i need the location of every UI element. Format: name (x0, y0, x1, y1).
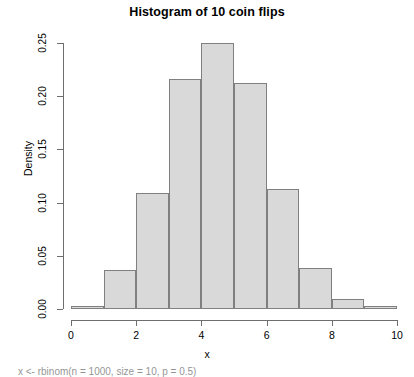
y-tick-mark (57, 149, 63, 150)
x-tick-label: 4 (198, 329, 204, 341)
x-tick-mark (201, 320, 202, 326)
y-tick-label: 0.20 (37, 86, 48, 105)
y-tick-label: 0.00 (37, 299, 48, 318)
x-tick-label: 2 (133, 329, 139, 341)
x-tick-label: 10 (391, 329, 403, 341)
chart-title: Histogram of 10 coin flips (0, 5, 414, 19)
histogram-bar (201, 43, 234, 309)
x-tick-mark (332, 320, 333, 326)
y-axis-label: Density (22, 141, 34, 176)
x-axis-line (71, 320, 397, 321)
histogram-bar (136, 193, 169, 309)
plot-area (71, 43, 397, 309)
code-caption: x <- rbinom(n = 1000, size = 10, p = 0.5… (18, 366, 196, 377)
histogram-bar (104, 270, 137, 309)
x-tick-label: 0 (68, 329, 74, 341)
y-tick-mark (57, 43, 63, 44)
histogram-bar (234, 83, 267, 309)
histogram-bar (364, 306, 397, 309)
y-tick-label: 0.05 (37, 246, 48, 265)
y-tick-label: 0.15 (37, 140, 48, 159)
x-tick-mark (71, 320, 72, 326)
y-tick-mark (57, 256, 63, 257)
histogram-bar (299, 268, 332, 309)
y-tick-label: 0.25 (37, 33, 48, 52)
histogram-bar (332, 299, 365, 309)
y-tick-mark (57, 203, 63, 204)
histogram-bar (169, 79, 202, 309)
y-tick-mark (57, 309, 63, 310)
x-tick-label: 8 (329, 329, 335, 341)
histogram-bar (71, 306, 104, 309)
x-tick-mark (397, 320, 398, 326)
x-axis-label: x (0, 348, 414, 360)
y-tick-mark (57, 96, 63, 97)
y-tick-label: 0.10 (37, 193, 48, 212)
y-axis-line (63, 43, 64, 309)
x-tick-label: 6 (264, 329, 270, 341)
x-tick-mark (267, 320, 268, 326)
x-tick-mark (136, 320, 137, 326)
histogram-bar (267, 189, 300, 309)
